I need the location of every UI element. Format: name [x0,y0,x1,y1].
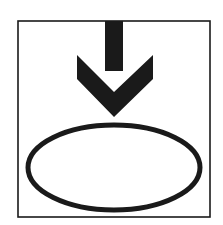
arrow-into-ellipse-symbol [0,0,223,225]
down-arrow-icon [77,21,153,117]
arrow-stem [105,21,123,71]
ellipse-outline [28,125,200,210]
